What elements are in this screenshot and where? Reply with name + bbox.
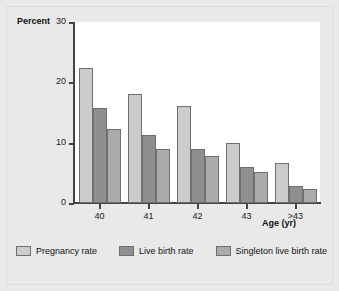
y-tick-label: 20 <box>56 76 66 86</box>
y-tick-mark <box>69 22 74 24</box>
bar <box>191 149 205 203</box>
y-tick-mark <box>69 82 74 84</box>
legend-swatch-icon <box>16 246 31 256</box>
y-tick-label: 30 <box>56 16 66 26</box>
bar <box>275 163 289 203</box>
legend-swatch-icon <box>119 246 134 256</box>
chart-legend: Pregnancy rateLive birth rateSingleton l… <box>16 243 326 259</box>
y-axis-tick: 20 <box>0 82 74 83</box>
bar <box>226 143 240 203</box>
bar <box>289 186 303 203</box>
bar <box>156 149 170 203</box>
bar <box>107 129 121 203</box>
legend-label: Pregnancy rate <box>36 246 97 256</box>
legend-label: Live birth rate <box>139 246 194 256</box>
legend-item[interactable]: Pregnancy rate <box>16 246 97 256</box>
bar <box>142 135 156 203</box>
y-tick-mark <box>69 143 74 145</box>
bar <box>128 94 142 203</box>
bar <box>93 108 107 203</box>
bar <box>205 156 219 203</box>
x-tick-mark <box>197 204 199 209</box>
x-tick-label: 42 <box>192 211 202 221</box>
x-tick-label: >43 <box>288 211 303 221</box>
y-axis-tick: 30 <box>0 22 74 23</box>
bar <box>79 68 93 203</box>
legend-swatch-icon <box>216 246 231 256</box>
legend-item[interactable]: Live birth rate <box>119 246 194 256</box>
bar <box>177 106 191 203</box>
bars-layer <box>75 22 320 203</box>
bar <box>254 172 268 203</box>
y-axis-tick: 0 <box>0 203 74 204</box>
bar <box>240 167 254 203</box>
y-tick-label: 0 <box>61 197 66 207</box>
x-tick-mark <box>99 204 101 209</box>
y-axis-title: Percent <box>17 16 50 26</box>
x-tick-label: 40 <box>94 211 104 221</box>
x-tick-mark <box>246 204 248 209</box>
y-tick-mark <box>69 203 74 205</box>
x-tick-mark <box>148 204 150 209</box>
legend-label: Singleton live birth rate <box>236 246 328 256</box>
x-tick-mark <box>295 204 297 209</box>
chart-figure: Percent Age (yr) 0102030 40414243>43 Pre… <box>0 0 339 291</box>
bar <box>303 189 317 203</box>
y-axis-tick: 10 <box>0 143 74 144</box>
x-tick-label: 43 <box>241 211 251 221</box>
x-tick-label: 41 <box>143 211 153 221</box>
legend-item[interactable]: Singleton live birth rate <box>216 246 328 256</box>
y-tick-label: 10 <box>56 137 66 147</box>
